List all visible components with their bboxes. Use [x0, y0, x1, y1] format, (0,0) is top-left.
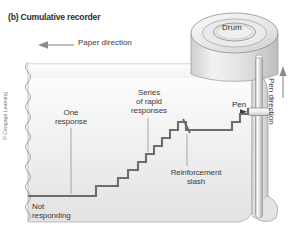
annotation-reinforcement-line2: slash [163, 177, 229, 186]
annotation-series-of-rapid-responses: Series of rapid responses [124, 88, 174, 115]
annotation-series-line2: of rapid [124, 97, 174, 106]
pen-rod [256, 56, 263, 218]
pen-rod-cap [256, 55, 263, 58]
copyright-notice: © Cengage Learning [2, 92, 8, 140]
pen-label: Pen [232, 100, 246, 109]
pen-direction-label: Pen direction [267, 78, 276, 125]
annotation-one-response: One response [48, 108, 94, 126]
paper-sheet [26, 62, 278, 222]
annotation-not-responding: Not responding [32, 202, 78, 220]
annotation-series-line3: responses [124, 106, 174, 115]
pen-direction-arrow [279, 66, 286, 98]
annotation-one-response-line1: One [48, 108, 94, 117]
annotation-series-line1: Series [124, 88, 174, 97]
annotation-one-response-line2: response [48, 117, 94, 126]
annotation-reinforcement-slash: Reinforcement slash [163, 168, 229, 186]
paper-direction-label: Paper direction [78, 38, 132, 47]
annotation-not-responding-line1: Not [32, 202, 78, 211]
figure-title: (b) Cumulative recorder [8, 12, 100, 22]
paper-direction-arrow [38, 41, 74, 49]
drum-label: Drum [222, 23, 242, 32]
annotation-reinforcement-line1: Reinforcement [163, 168, 229, 177]
cumulative-recorder-figure: (b) Cumulative recorder Paper direction … [0, 0, 300, 240]
annotation-not-responding-line2: responding [32, 211, 78, 220]
